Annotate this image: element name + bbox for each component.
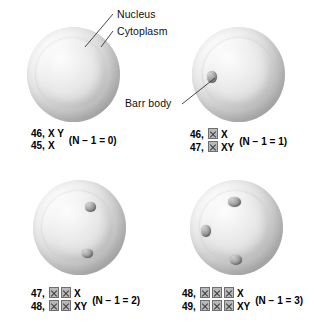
n-minus-one-cell-4: (N − 1 = 3) [255,295,303,306]
sex-chromosomes: XY [221,142,234,154]
n-minus-one-cell-1: (N − 1 = 0) [69,135,117,146]
inactive-x-group [207,128,219,141]
barr-body-figure: Nucleus Cytoplasm Barr body 46, X Y 45, [0,0,314,327]
inactive-x-group [199,300,235,313]
inactive-x-glyph [224,300,234,311]
sex-chromosomes: XY [237,301,250,313]
sex-chromosomes: X [237,288,244,300]
chromosome-number: 45, [31,140,45,152]
karyotype-cell-4: 48, X 49, XY [182,287,250,313]
inactive-x-glyph [49,287,59,298]
n-minus-one-cell-3: (N − 1 = 2) [92,295,140,306]
karyotype-line: 48, XY [31,300,87,313]
barr-body [207,71,217,83]
barr-body [82,249,93,258]
sex-chromosomes: X [48,140,55,152]
barr-body [201,225,211,237]
caption-cell-1: 46, X Y 45, X (N − 1 = 0) [31,128,117,152]
karyotype-line: 45, X [31,140,64,152]
inactive-x-glyph [208,128,218,139]
nucleus-cell-3 [42,191,113,262]
barr-body [230,255,242,265]
inactive-x-glyph [61,300,71,311]
inactive-x-glyph [212,287,222,298]
karyotype-line: 49, XY [182,300,250,313]
karyotype-cell-3: 47, X 48, XY [31,287,87,313]
inactive-x-group [199,287,235,300]
inactive-x-glyph [200,300,210,311]
chromosome-number: 46, [31,128,45,140]
inactive-x-glyph [200,287,210,298]
karyotype-line: 46, X Y [31,128,64,140]
inactive-x-glyph [61,287,71,298]
karyotype-line: 46, X [190,128,234,141]
inactive-x-group [48,300,72,313]
inactive-x-group [207,141,219,154]
callout-barr-body: Barr body [125,97,171,109]
karyotype-line: 47, XY [190,141,234,154]
inactive-x-glyph [212,300,222,311]
cell-4 [190,180,283,275]
karyotype-cell-2: 46, X 47, XY [190,128,234,154]
inactive-x-glyph [224,287,234,298]
cell-3 [33,180,126,275]
inactive-x-glyph [49,300,59,311]
callout-nucleus: Nucleus [117,8,156,20]
callout-cytoplasm: Cytoplasm [117,25,168,37]
nucleus-cell-1 [36,38,107,109]
n-minus-one-cell-2: (N − 1 = 1) [239,136,287,147]
chromosome-number: 48, [31,301,45,313]
karyotype-line: 47, X [31,287,87,300]
sex-chromosomes: X [74,288,81,300]
chromosome-number: 47, [190,142,204,154]
inactive-x-glyph [208,141,218,152]
sex-chromosomes: X [221,129,228,141]
cell-2 [192,27,285,122]
chromosome-number: 46, [190,129,204,141]
sex-chromosomes: XY [74,301,87,313]
inactive-x-group [48,287,72,300]
karyotype-cell-1: 46, X Y 45, X [31,128,64,152]
chromosome-number: 48, [182,288,196,300]
caption-cell-3: 47, X 48, XY (N − 1 = 2) [31,287,140,313]
chromosome-number: 49, [182,301,196,313]
caption-cell-4: 48, X 49, XY (N − 1 = 3) [182,287,303,313]
karyotype-line: 48, X [182,287,250,300]
chromosome-number: 47, [31,288,45,300]
caption-cell-2: 46, X 47, XY (N − 1 = 1) [190,128,287,154]
cell-1 [27,27,120,122]
barr-body [85,202,96,212]
sex-chromosomes: X Y [48,128,64,140]
barr-body [228,197,241,207]
